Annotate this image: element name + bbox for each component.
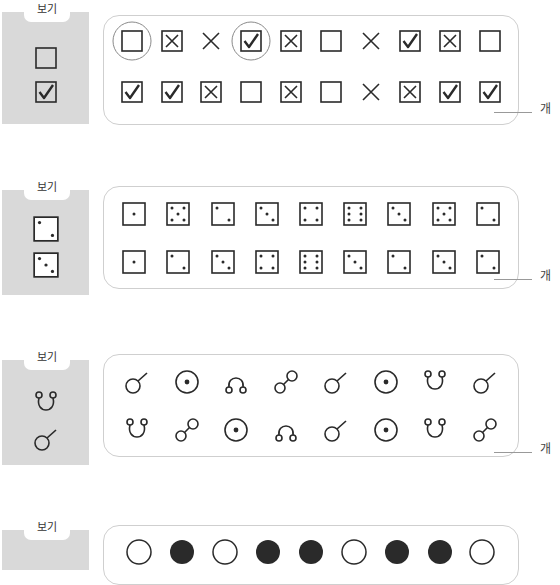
problem-frame bbox=[103, 525, 519, 585]
dice-6-icon bbox=[298, 249, 324, 275]
symbol-row bbox=[104, 415, 518, 445]
circle-open-icon bbox=[211, 538, 239, 566]
legend-box: 보기 bbox=[2, 12, 89, 124]
ring-dumbbell-icon bbox=[470, 415, 500, 445]
circle-filled-icon bbox=[168, 538, 196, 566]
dice-3-icon bbox=[254, 201, 280, 227]
circle-open-icon bbox=[125, 538, 153, 566]
circle-open-icon bbox=[468, 538, 496, 566]
dice-3-icon bbox=[210, 249, 236, 275]
dice-2-icon bbox=[165, 249, 191, 275]
dice-1-icon bbox=[121, 249, 147, 275]
dice-3-icon bbox=[431, 249, 457, 275]
legend-label: 보기 bbox=[24, 518, 70, 540]
checkbox-empty-icon bbox=[318, 79, 344, 105]
circle-filled-icon bbox=[426, 538, 454, 566]
problem-frame bbox=[103, 186, 519, 289]
symbol-row bbox=[104, 538, 518, 566]
checkbox-check-icon bbox=[231, 21, 271, 61]
circle-open-icon bbox=[340, 538, 368, 566]
dice-2-icon bbox=[32, 215, 60, 243]
ring-dot-icon bbox=[221, 415, 251, 445]
dice-2-icon bbox=[386, 249, 412, 275]
checkbox-xbox-icon bbox=[397, 79, 423, 105]
checkbox-empty-icon bbox=[238, 79, 264, 105]
legend-label: 보기 bbox=[24, 0, 70, 22]
dice-3-icon bbox=[32, 251, 60, 279]
checkbox-empty-icon bbox=[318, 28, 344, 54]
legend-label: 보기 bbox=[24, 178, 70, 200]
checkbox-xbox-icon bbox=[437, 28, 463, 54]
section-dice: 보기 개 bbox=[0, 178, 560, 298]
dice-5-icon bbox=[431, 201, 457, 227]
answer-line bbox=[494, 279, 532, 280]
symbol-row bbox=[104, 367, 518, 397]
answer-line bbox=[494, 112, 532, 113]
ring-u-icon bbox=[31, 388, 61, 418]
legend-box: 보기 bbox=[2, 360, 89, 465]
dice-3-icon bbox=[342, 249, 368, 275]
dice-4-icon bbox=[298, 201, 324, 227]
ring-arch-icon bbox=[221, 367, 251, 397]
circle-filled-icon bbox=[254, 538, 282, 566]
legend-items bbox=[2, 388, 89, 454]
section-checkbox: 보기 개 bbox=[0, 0, 560, 130]
dice-2-icon bbox=[210, 201, 236, 227]
dice-3-icon bbox=[386, 201, 412, 227]
checkbox-xbox-icon bbox=[278, 28, 304, 54]
checkbox-x-icon bbox=[358, 79, 384, 105]
answer-line bbox=[494, 452, 532, 453]
checkbox-check-icon bbox=[477, 79, 503, 105]
ring-u-icon bbox=[420, 415, 450, 445]
answer-unit: 개 bbox=[540, 266, 551, 283]
checkbox-xbox-icon bbox=[159, 28, 185, 54]
legend-box: 보기 bbox=[2, 530, 89, 570]
ring-dot-icon bbox=[172, 367, 202, 397]
checkbox-check-icon bbox=[437, 79, 463, 105]
section-circle: 보기 bbox=[0, 518, 560, 558]
checkbox-xbox-icon bbox=[278, 79, 304, 105]
ring-dumbbell-icon bbox=[271, 367, 301, 397]
symbol-row bbox=[104, 249, 518, 275]
dice-2-icon bbox=[475, 249, 501, 275]
checkbox-check-icon bbox=[119, 79, 145, 105]
dice-4-icon bbox=[254, 249, 280, 275]
checkbox-x-icon bbox=[358, 28, 384, 54]
legend-box: 보기 bbox=[2, 190, 89, 295]
ring-dumbbell-icon bbox=[172, 415, 202, 445]
dice-2-icon bbox=[475, 201, 501, 227]
ring-stick-icon bbox=[321, 367, 351, 397]
symbol-row bbox=[104, 201, 518, 227]
dice-5-icon bbox=[165, 201, 191, 227]
checkbox-empty-icon bbox=[112, 21, 152, 61]
checkbox-empty-icon bbox=[477, 28, 503, 54]
legend-label: 보기 bbox=[24, 348, 70, 370]
checkbox-check-icon bbox=[159, 79, 185, 105]
checkbox-check-icon bbox=[397, 28, 423, 54]
dice-6-icon bbox=[342, 201, 368, 227]
checkbox-check-icon bbox=[33, 79, 59, 105]
ring-dot-icon bbox=[371, 415, 401, 445]
checkbox-x-icon bbox=[198, 28, 224, 54]
checkbox-empty-icon bbox=[33, 45, 59, 71]
legend-items bbox=[2, 45, 89, 105]
ring-stick-icon bbox=[321, 415, 351, 445]
section-ring: 보기 개 bbox=[0, 348, 560, 468]
ring-dot-icon bbox=[371, 367, 401, 397]
legend-items bbox=[2, 215, 89, 279]
ring-stick-icon bbox=[470, 367, 500, 397]
circle-filled-icon bbox=[297, 538, 325, 566]
problem-frame bbox=[103, 354, 519, 457]
ring-arch-icon bbox=[271, 415, 301, 445]
circle-filled-icon bbox=[383, 538, 411, 566]
ring-stick-icon bbox=[122, 367, 152, 397]
checkbox-xbox-icon bbox=[198, 79, 224, 105]
symbol-row bbox=[104, 79, 518, 105]
ring-u-icon bbox=[122, 415, 152, 445]
ring-stick-icon bbox=[31, 424, 61, 454]
answer-unit: 개 bbox=[540, 99, 551, 116]
answer-unit: 개 bbox=[540, 439, 551, 456]
symbol-row bbox=[104, 28, 518, 54]
dice-1-icon bbox=[121, 201, 147, 227]
problem-frame bbox=[103, 15, 519, 125]
